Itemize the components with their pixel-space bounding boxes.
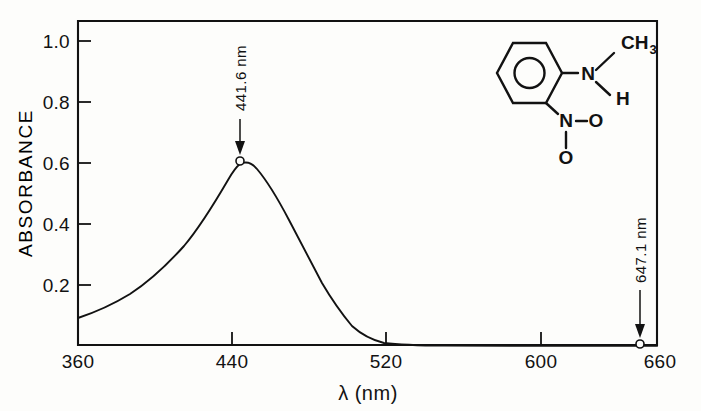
annotation-441-group: 441.6 nm xyxy=(232,45,249,155)
y-axis-ticks xyxy=(78,41,91,285)
x-tick-label-660: 660 xyxy=(644,351,677,372)
y-tick-label-0.4: 0.4 xyxy=(43,214,70,235)
y-axis-title-group: ABSORBANCE xyxy=(15,109,36,257)
annotation-441-arrow-head xyxy=(235,141,245,155)
benzene-ring-hexagon xyxy=(497,43,562,103)
figure-page: 1.0 0.8 0.6 0.4 0.2 ABSORBANCE 360 440 5… xyxy=(0,0,701,411)
nitro-oxygen-single-label: O xyxy=(589,110,604,131)
nitro-nitrogen-label: N xyxy=(559,110,573,131)
x-axis-tick-labels: 360 440 520 600 660 xyxy=(62,351,677,372)
x-tick-label-440: 440 xyxy=(216,351,249,372)
y-tick-label-0.6: 0.6 xyxy=(43,153,70,174)
spectrum-curve xyxy=(78,163,657,346)
annotation-647-label: 647.1 nm xyxy=(632,217,649,283)
absorbance-spectrum-figure: 1.0 0.8 0.6 0.4 0.2 ABSORBANCE 360 440 5… xyxy=(0,0,701,411)
amine-nitrogen-label: N xyxy=(581,63,595,84)
x-axis-title: λ (nm) xyxy=(338,382,398,404)
x-tick-label-520: 520 xyxy=(370,351,403,372)
laser-marker-647 xyxy=(636,340,644,348)
plot-frame xyxy=(78,21,657,345)
y-axis-tick-labels: 1.0 0.8 0.6 0.4 0.2 xyxy=(43,31,70,296)
x-axis-ticks xyxy=(78,332,657,345)
bond-ring-to-nitro-nitrogen xyxy=(546,103,558,114)
benzene-aromatic-circle xyxy=(515,58,545,88)
bond-amine-to-methyl xyxy=(596,53,614,70)
x-tick-label-360: 360 xyxy=(62,351,95,372)
y-tick-label-0.2: 0.2 xyxy=(43,275,70,296)
x-tick-label-600: 600 xyxy=(525,351,558,372)
bond-amine-to-hydrogen xyxy=(596,82,610,95)
annotation-441-label: 441.6 nm xyxy=(232,45,249,111)
annotation-647-group: 647.1 nm xyxy=(632,217,649,338)
y-tick-label-1.0: 1.0 xyxy=(43,31,70,52)
peak-marker-441 xyxy=(236,157,244,165)
y-axis-title: ABSORBANCE xyxy=(15,109,36,257)
spectrum-curve-group xyxy=(78,163,657,346)
annotation-647-arrow-head xyxy=(635,324,645,338)
amine-hydrogen-label: H xyxy=(616,88,630,109)
methyl-label: CH3 xyxy=(621,32,657,57)
axes-border xyxy=(78,21,657,345)
chemical-structure-inset: N CH3 H N O O xyxy=(497,32,657,168)
y-tick-label-0.8: 0.8 xyxy=(43,92,70,113)
nitro-oxygen-double-label: O xyxy=(559,147,574,168)
